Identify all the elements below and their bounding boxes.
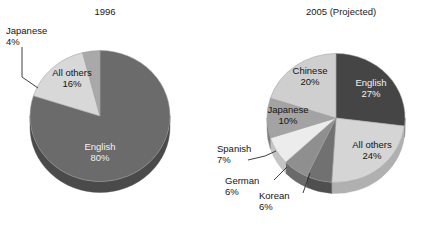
slice-value-all-others: 24% xyxy=(362,150,382,161)
chart-title-2005: 2005 (Projected) xyxy=(306,6,376,17)
slice-value-all-others: 16% xyxy=(62,78,82,89)
slice-label-spanish: Spanish xyxy=(217,143,251,154)
slice-label-english: English xyxy=(355,77,386,88)
slice-value-japanese: 10% xyxy=(278,115,298,126)
slice-label-chinese: Chinese xyxy=(293,65,328,76)
slice-label-japanese: Japanese xyxy=(6,25,47,36)
slice-value-english: 80% xyxy=(90,152,110,163)
pie-chart-pie2005: English27%All others24%Korean6%German6%S… xyxy=(217,53,405,212)
slice-value-spanish: 7% xyxy=(217,154,231,165)
figure-canvas: English80%All others16%Japanese4%English… xyxy=(0,0,432,227)
leader-line-german xyxy=(274,167,287,180)
slice-label-korean: Korean xyxy=(259,190,290,201)
pie-chart-pie1996: English80%All others16%Japanese4% xyxy=(6,25,170,192)
slice-label-english: English xyxy=(84,141,115,152)
slice-value-german: 6% xyxy=(225,186,239,197)
slice-value-chinese: 20% xyxy=(300,76,320,87)
slice-value-japanese: 4% xyxy=(6,36,20,47)
slice-value-english: 27% xyxy=(361,88,381,99)
leader-line-japanese xyxy=(22,47,38,88)
chart-title-1996: 1996 xyxy=(94,6,115,17)
slice-value-korean: 6% xyxy=(259,201,273,212)
slice-label-japanese: Japanese xyxy=(267,104,308,115)
chart-layer: English80%All others16%Japanese4%English… xyxy=(6,25,405,212)
slice-label-all-others: All others xyxy=(352,139,392,150)
slice-label-all-others: All others xyxy=(52,67,92,78)
slice-label-german: German xyxy=(225,175,259,186)
pie-charts-figure: English80%All others16%Japanese4%English… xyxy=(0,0,432,227)
